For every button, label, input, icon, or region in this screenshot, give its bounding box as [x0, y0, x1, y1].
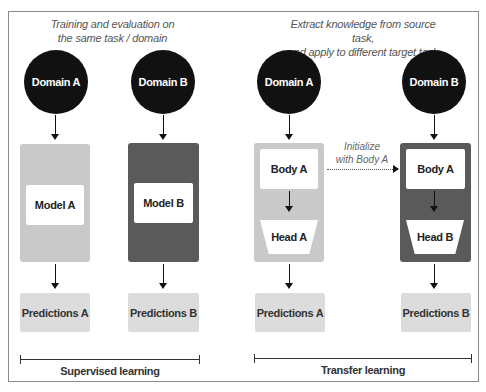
predictions-b-box-right: Predictions B — [401, 293, 471, 332]
connector-line — [55, 115, 56, 135]
arrow-down-icon — [159, 283, 167, 289]
domain-label: Domain B — [410, 76, 459, 88]
connector-line — [434, 115, 435, 135]
head-b-box: Head B — [406, 220, 464, 254]
predictions-label: Predictions B — [402, 307, 469, 319]
initialize-label-line1: Initialize — [330, 140, 394, 153]
head-label: Head B — [417, 231, 453, 243]
initialize-label: Initialize with Body A — [330, 140, 394, 166]
connector-line — [55, 264, 56, 284]
domain-a-circle-left: Domain A — [24, 50, 88, 114]
head-label: Head A — [271, 231, 307, 243]
supervised-bracket — [20, 359, 200, 360]
transfer-bracket — [254, 358, 472, 359]
arrow-right-icon — [393, 165, 399, 173]
model-a-box: Model A — [26, 185, 84, 225]
supervised-learning-label: Supervised learning — [20, 365, 200, 377]
transfer-learning-label: Transfer learning — [254, 364, 472, 376]
arrow-down-icon — [430, 206, 438, 212]
predictions-label: Predictions B — [130, 307, 197, 319]
predictions-b-box-left: Predictions B — [128, 293, 199, 332]
connector-line — [434, 191, 435, 207]
supervised-caption-line1: Training and evaluation on — [40, 17, 185, 31]
connector-line — [289, 115, 290, 135]
domain-b-circle-right: Domain B — [402, 50, 466, 114]
domain-label: Domain B — [139, 76, 188, 88]
predictions-label: Predictions A — [257, 307, 324, 319]
connector-line — [289, 191, 290, 207]
connector-line — [434, 264, 435, 284]
body-a-box-source: Body A — [260, 149, 318, 189]
arrow-down-icon — [51, 283, 59, 289]
arrow-down-icon — [285, 283, 293, 289]
model-label: Model A — [35, 199, 75, 211]
body-label: Body A — [271, 163, 307, 175]
initialize-label-line2: with Body A — [330, 153, 394, 166]
domain-b-circle-left: Domain B — [131, 50, 195, 114]
domain-label: Domain A — [265, 76, 314, 88]
connector-line — [289, 264, 290, 284]
connector-line — [163, 115, 164, 135]
domain-label: Domain A — [32, 76, 81, 88]
transfer-dotted-line — [327, 169, 393, 170]
arrow-down-icon — [430, 283, 438, 289]
arrow-down-icon — [159, 134, 167, 140]
body-a-box-target: Body A — [406, 149, 465, 189]
arrow-down-icon — [51, 134, 59, 140]
domain-a-circle-right: Domain A — [257, 50, 321, 114]
body-label: Body A — [417, 163, 453, 175]
arrow-down-icon — [285, 206, 293, 212]
arrow-down-icon — [430, 134, 438, 140]
predictions-label: Predictions A — [22, 307, 89, 319]
model-b-box: Model B — [134, 183, 193, 223]
predictions-a-box-left: Predictions A — [20, 293, 90, 332]
supervised-caption: Training and evaluation on the same task… — [40, 17, 185, 45]
head-a-box: Head A — [260, 220, 318, 254]
transfer-caption-line1: Extract knowledge from source task, — [283, 17, 443, 45]
arrow-down-icon — [285, 134, 293, 140]
supervised-caption-line2: the same task / domain — [40, 31, 185, 45]
connector-line — [163, 264, 164, 284]
predictions-a-box-right: Predictions A — [255, 293, 325, 332]
model-label: Model B — [143, 197, 184, 209]
